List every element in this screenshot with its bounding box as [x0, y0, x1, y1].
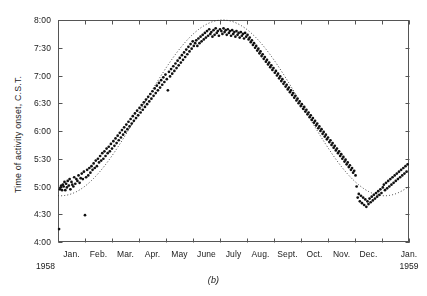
- x-tick-label: Oct.: [307, 249, 323, 259]
- x-tick-label: Jan.: [63, 249, 79, 259]
- x-tick-label: Feb.: [90, 249, 107, 259]
- y-tick-label: 4:00: [8, 237, 51, 247]
- x-tick-label: Mar.: [117, 249, 134, 259]
- y-tick-label: 7:30: [8, 43, 51, 53]
- y-tick-label: 6:30: [8, 98, 51, 108]
- year-start-label: 1958: [36, 261, 55, 271]
- x-tick-label: July: [226, 249, 242, 259]
- y-tick-label: 8:00: [8, 15, 51, 25]
- x-tick-label: Sept.: [277, 249, 297, 259]
- y-tick-label: 5:00: [8, 182, 51, 192]
- y-tick-label: 7:00: [8, 71, 51, 81]
- x-tick-label: Aug.: [252, 249, 270, 259]
- x-tick-label: Dec.: [360, 249, 378, 259]
- x-tick-label: June: [197, 249, 216, 259]
- x-tick-label: May: [171, 249, 187, 259]
- year-end-label: 1959: [400, 261, 419, 271]
- x-tick-label: Apr.: [145, 249, 161, 259]
- x-tick-label: Nov.: [333, 249, 350, 259]
- figure-panel-b: Time of activity onset, C.S.T. 4:004:305…: [0, 0, 427, 296]
- y-tick-label: 6:00: [8, 126, 51, 136]
- y-tick-label: 4:30: [8, 209, 51, 219]
- x-tick-label: Jan.: [401, 249, 417, 259]
- panel-caption: (b): [0, 275, 427, 285]
- y-tick-label: 5:30: [8, 154, 51, 164]
